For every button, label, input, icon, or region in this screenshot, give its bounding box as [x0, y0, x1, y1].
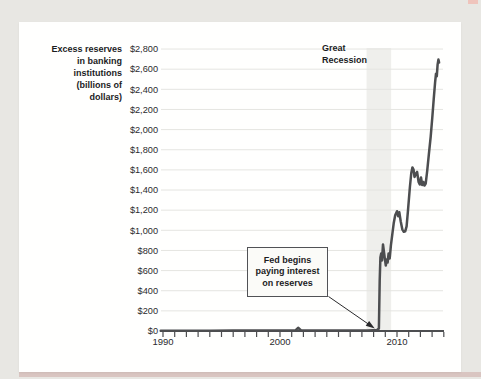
y-tick-label: $400 — [138, 286, 158, 296]
y-tick-label: $200 — [138, 306, 158, 316]
y-tick-label: $0 — [148, 326, 158, 336]
y-tick-label: $2,600 — [130, 64, 158, 74]
y-tick-label: $600 — [138, 266, 158, 276]
x-tick-label: 2010 — [386, 336, 407, 347]
y-tick-label: $1,400 — [130, 185, 158, 195]
fed-interest-callout: Fed begins paying interest on reserves — [247, 247, 328, 297]
y-axis-title: Excess reserves in banking institutions … — [36, 43, 122, 103]
y-tick-label: $1,600 — [130, 165, 158, 175]
figure-page: 199020002010$0$200$400$600$800$1,000$1,2… — [0, 0, 481, 379]
y-tick-label: $2,200 — [130, 105, 158, 115]
y-tick-label: $2,000 — [130, 125, 158, 135]
y-tick-label: $800 — [138, 246, 158, 256]
y-tick-label: $2,400 — [130, 85, 158, 95]
x-tick-label: 1990 — [152, 336, 173, 347]
y-tick-label: $1,000 — [130, 226, 158, 236]
y-tick-label: $1,800 — [130, 145, 158, 155]
great-recession-label: Great Recession — [322, 43, 367, 66]
x-tick-label: 2000 — [269, 336, 290, 347]
y-tick-label: $1,200 — [130, 205, 158, 215]
y-tick-label: $2,800 — [130, 44, 158, 54]
